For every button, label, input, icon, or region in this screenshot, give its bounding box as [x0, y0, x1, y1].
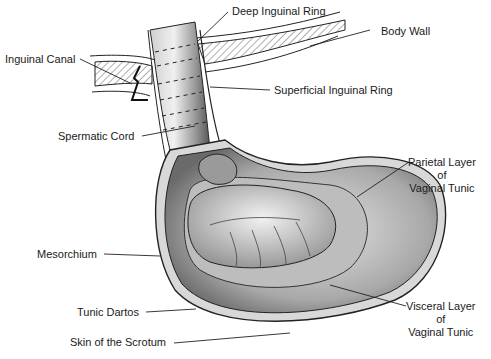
label-body-wall: Body Wall — [381, 25, 430, 38]
label-parietal-layer: Parietal Layer of Vaginal Tunic — [408, 156, 476, 195]
label-inguinal-canal: Inguinal Canal — [5, 53, 75, 66]
label-skin-of-scrotum: Skin of the Scrotum — [70, 336, 166, 349]
label-visceral-line1: Visceral Layer — [406, 300, 476, 313]
label-deep-inguinal-ring: Deep Inguinal Ring — [232, 5, 326, 18]
label-tunic-dartos: Tunic Dartos — [77, 306, 139, 319]
label-visceral-line3: Vaginal Tunic — [406, 326, 476, 339]
label-parietal-line2: of — [408, 169, 476, 182]
label-visceral-layer: Visceral Layer of Vaginal Tunic — [406, 300, 476, 339]
label-mesorchium: Mesorchium — [37, 248, 97, 261]
label-parietal-line3: Vaginal Tunic — [408, 182, 476, 195]
label-parietal-line1: Parietal Layer — [408, 156, 476, 169]
scrotal-sac — [156, 140, 446, 321]
label-superficial-inguinal-ring: Superficial Inguinal Ring — [274, 84, 393, 97]
label-visceral-line2: of — [406, 313, 476, 326]
label-spermatic-cord: Spermatic Cord — [58, 130, 134, 143]
